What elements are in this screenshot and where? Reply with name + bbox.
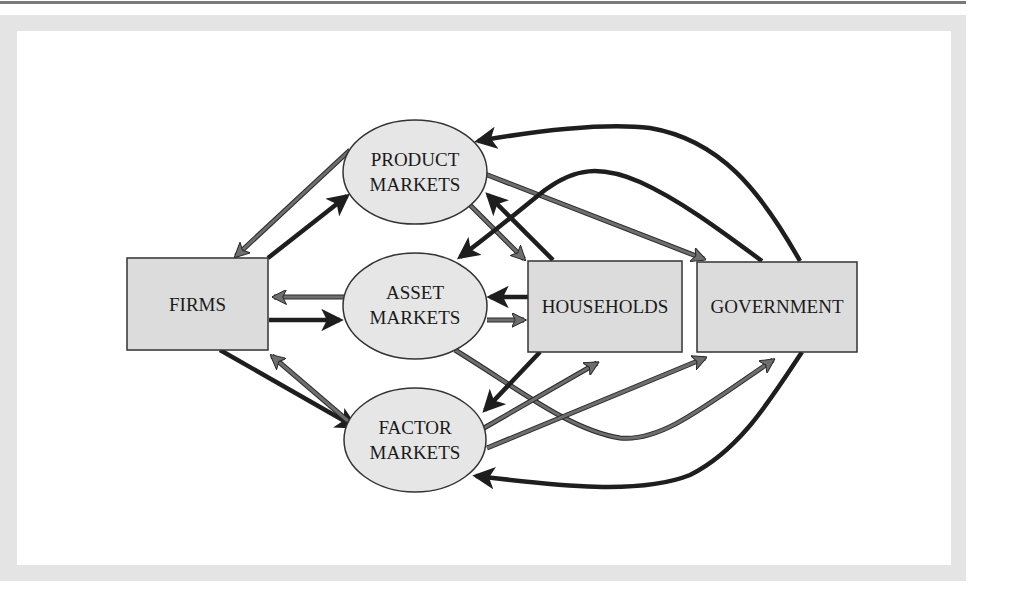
factor-markets-line1: FACTOR bbox=[378, 417, 452, 438]
households-label: HOUSEHOLDS bbox=[542, 296, 669, 317]
arrow-firms-to-factor bbox=[220, 350, 355, 427]
node-firms: FIRMS bbox=[127, 258, 268, 350]
node-households: HOUSEHOLDS bbox=[528, 261, 682, 352]
factor-markets-line2: MARKETS bbox=[370, 442, 461, 463]
product-markets-line2: MARKETS bbox=[370, 174, 461, 195]
node-factor-markets: FACTOR MARKETS bbox=[344, 388, 486, 492]
arrow-government-to-asset bbox=[460, 171, 762, 261]
node-asset-markets: ASSET MARKETS bbox=[343, 253, 487, 359]
government-label: GOVERNMENT bbox=[711, 296, 844, 317]
asset-markets-line1: ASSET bbox=[386, 282, 444, 303]
circular-flow-diagram: FIRMS HOUSEHOLDS GOVERNMENT PRODUCT MARK… bbox=[0, 0, 1014, 611]
arrow-firms-to-product bbox=[268, 196, 347, 258]
arrow-government-to-product bbox=[478, 126, 800, 261]
node-product-markets: PRODUCT MARKETS bbox=[343, 120, 487, 224]
node-government: GOVERNMENT bbox=[697, 262, 857, 352]
product-markets-line1: PRODUCT bbox=[371, 149, 460, 170]
asset-markets-line2: MARKETS bbox=[370, 307, 461, 328]
firms-label: FIRMS bbox=[169, 294, 226, 315]
